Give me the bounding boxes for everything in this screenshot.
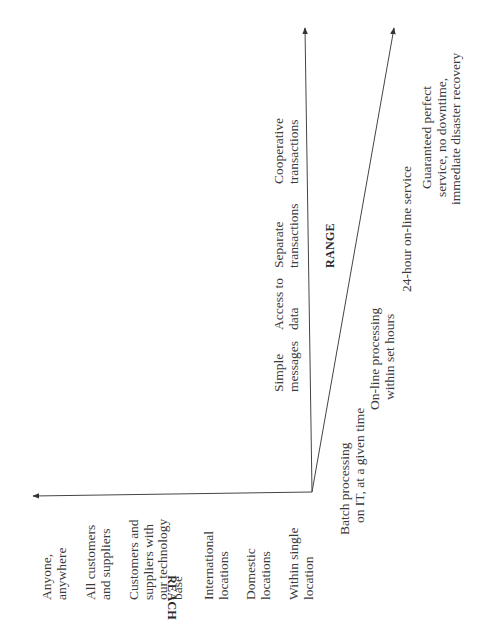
label-line: data [287,278,302,330]
label-line: All customers [84,525,99,600]
label-line: Separate [272,204,287,268]
reach-label-single-location: Within single location [287,527,316,600]
label-line: within set hours [383,308,398,410]
label-line: Anyone, [40,548,55,600]
label-line: locations [217,531,232,600]
range-label-simple-messages: Simple messages [272,341,301,392]
label-line: International [202,531,217,600]
reach-label-domestic: Domestic locations [244,548,273,600]
label-line: On-line processing [368,308,383,410]
label-line: transactions [287,118,302,184]
label-line: location [302,527,317,600]
label-line: Simple [272,341,287,392]
reach-axis-title: REACH [164,575,179,620]
label-line: Batch processing [338,408,353,535]
label-line: transactions [287,204,302,268]
label-line: and suppliers [99,525,114,600]
reach-label-anyone: Anyone, anywhere [40,548,69,600]
range-axis-arrow [305,28,312,492]
label-line: anywhere [55,548,70,600]
label-line: Customers and [127,519,142,600]
reach-axis-arrow [33,492,312,496]
resp-label-batch: Batch processing on IT, at a given time [338,408,367,535]
resp-label-online-set-hours: On-line processing within set hours [368,308,397,410]
label-line: suppliers with [142,519,157,600]
label-line: messages [287,341,302,392]
label-line: 24-hour on-line service [400,166,415,292]
label-line: Within single [287,527,302,600]
label-line: on IT, at a given time [353,408,368,535]
range-label-separate-transactions: Separate transactions [272,204,301,268]
label-line: service, no downtime, [435,53,450,205]
reach-label-all-customers: All customers and suppliers [84,525,113,600]
resp-label-24-hour: 24-hour on-line service [400,166,415,292]
range-label-cooperative-transactions: Cooperative transactions [272,118,301,184]
label-line: Guaranteed perfect [420,53,435,205]
label-line: Domestic [244,548,259,600]
reach-label-international: International locations [202,531,231,600]
label-line: immediate disaster recovery [449,53,464,205]
label-line: locations [259,548,274,600]
reach-range-diagram: Anyone, anywhere All customers and suppl… [0,0,485,644]
label-line: Access to [272,278,287,330]
range-axis-title: RANGE [323,223,338,268]
resp-label-guaranteed: Guaranteed perfect service, no downtime,… [420,53,464,205]
label-line: Cooperative [272,118,287,184]
range-label-access-to-data: Access to data [272,278,301,330]
